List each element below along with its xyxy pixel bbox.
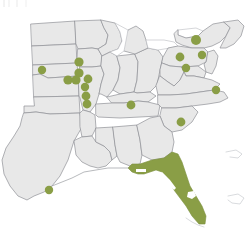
occurrence-dot: Southeast Missouri xyxy=(82,92,91,101)
state-kansas xyxy=(33,74,79,97)
occurrence-dot: Western Pennsylvania / West Virginia xyxy=(176,53,185,62)
occurrence-dot: East-central Missouri xyxy=(81,83,89,91)
gulf-coastline xyxy=(52,168,128,186)
occurrence-dot: Central South Carolina xyxy=(177,118,186,127)
state-texas xyxy=(2,112,82,200)
occurrence-dot: Central Pennsylvania xyxy=(191,35,201,45)
landmass-group xyxy=(2,20,244,227)
florida-panhandle-notch xyxy=(136,169,146,172)
occurrence-dot: Southeast Missouri / Bootheel xyxy=(83,100,92,109)
state-north-dakota xyxy=(31,21,76,46)
occurrence-dot: Central Missouri xyxy=(71,75,80,84)
occurrence-dot: Texas Gulf Coast xyxy=(45,186,53,194)
state-arkansas xyxy=(80,110,96,137)
occurrence-dot: Middle Tennessee xyxy=(127,101,136,110)
occurrence-dot: Eastern Pennsylvania / Maryland xyxy=(198,51,206,59)
occurrence-dot: West Virginia / Virginia xyxy=(182,64,190,72)
distribution-map-figure: Eastern Kansas / Missouri borderNortheas… xyxy=(0,0,249,241)
map-canvas: Eastern Kansas / Missouri borderNortheas… xyxy=(0,0,249,241)
occurrence-dot: East-central Missouri xyxy=(84,75,93,84)
cuba-outline xyxy=(228,194,244,204)
bahamas-outline xyxy=(226,150,242,158)
state-south-dakota xyxy=(32,44,77,65)
occurrence-dot: Central Missouri xyxy=(63,75,72,84)
occurrence-dot: Northeast Missouri / Iowa border xyxy=(74,57,83,66)
occurrence-dot: Eastern North Carolina xyxy=(212,86,220,94)
occurrence-dot: Eastern Kansas / Missouri border xyxy=(38,66,46,74)
state-oklahoma xyxy=(24,96,80,114)
state-alabama xyxy=(113,125,142,166)
